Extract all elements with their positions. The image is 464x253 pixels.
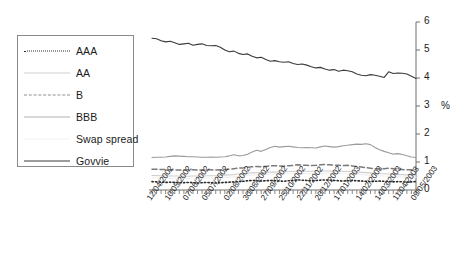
legend-item-aaa: AAA (18, 40, 135, 62)
legend-swatch-aa (24, 67, 70, 79)
y-tick-label: 3 (424, 99, 430, 110)
legend-swatch-aaa (24, 45, 70, 57)
legend-swatch-swap-spread (24, 133, 70, 145)
legend-item-aa: AA (18, 62, 135, 84)
legend-swatch-bbb (24, 111, 70, 123)
y-tick-label: 1 (424, 155, 430, 166)
legend-item-b: B (18, 84, 135, 106)
y-tick-label: 6 (424, 15, 430, 26)
legend-label-bbb: BBB (76, 111, 97, 123)
legend-label-swap-spread: Swap spread (76, 133, 138, 145)
legend-label-aa: AA (76, 67, 90, 79)
legend-label-govvie: Govvie (76, 155, 109, 167)
y-tick-label: 5 (424, 43, 430, 54)
legend-swatch-b (24, 89, 70, 101)
legend-swatch-govvie (24, 155, 70, 167)
legend-item-bbb: BBB (18, 106, 135, 128)
series-line-govvie (152, 38, 416, 78)
series-line-bbb (152, 144, 416, 158)
y-axis-unit-label: % (441, 100, 450, 111)
legend-item-govvie: Govvie (18, 150, 135, 172)
y-tick-label: 2 (424, 127, 430, 138)
y-tick-label: 4 (424, 71, 430, 82)
legend-label-aaa: AAA (76, 45, 97, 57)
legend-item-swap-spread: Swap spread (18, 128, 135, 150)
legend-label-b: B (76, 89, 83, 101)
chart-legend: AAA AA B BBB Swap spread Govvie (17, 35, 134, 167)
